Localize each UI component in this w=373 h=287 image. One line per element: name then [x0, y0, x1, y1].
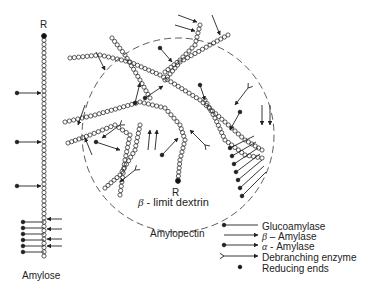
amylopectin-label: Amylopectin — [150, 228, 204, 239]
beta-limit-text: - limit dextrin — [143, 196, 208, 208]
legend-alpha-amylase: α - Amylase — [262, 241, 314, 252]
legend-reducing-ends: Reducing ends — [262, 263, 329, 274]
beta-limit-dextrin-label: β - limit dextrin — [138, 197, 209, 208]
reducing-end-label-amylose: R — [40, 19, 47, 30]
starch-diagram — [0, 0, 373, 287]
legend-debranching-enzyme: Debranching enzyme — [262, 252, 357, 263]
amylose-label: Amylose — [22, 270, 60, 281]
